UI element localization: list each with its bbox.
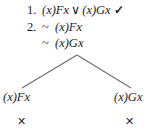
- tree-line-3: ~(x)Gx: [27, 36, 83, 50]
- closure-x-icon-left: ✕: [17, 115, 26, 128]
- formula-2: (x)Fx: [55, 20, 82, 34]
- tree-line-1: 1.(x)Fx∨(x)Gx✓: [27, 3, 124, 17]
- formula-1-left: (x)Fx: [42, 3, 69, 17]
- negation-symbol-3: ~: [42, 36, 55, 50]
- checkmark-icon: ✓: [111, 3, 124, 17]
- line-number-1: 1.: [27, 3, 42, 17]
- negation-symbol-2: ~: [42, 20, 55, 34]
- branch-line-right: [77, 55, 131, 88]
- branch-line-left: [22, 55, 77, 88]
- truth-tree-diagram: 1.(x)Fx∨(x)Gx✓ 2.~(x)Fx ~(x)Gx (x)Fx (x)…: [0, 0, 159, 137]
- branch-label-right: (x)Gx: [114, 90, 142, 105]
- tree-line-2: 2.~(x)Fx: [27, 20, 82, 34]
- disjunction-operator: ∨: [69, 3, 82, 17]
- line-number-2: 2.: [27, 20, 42, 34]
- formula-1-right: (x)Gx: [82, 3, 110, 17]
- closure-x-icon-right: ✕: [125, 115, 134, 128]
- branch-label-left: (x)Fx: [3, 90, 30, 105]
- formula-3: (x)Gx: [55, 36, 83, 50]
